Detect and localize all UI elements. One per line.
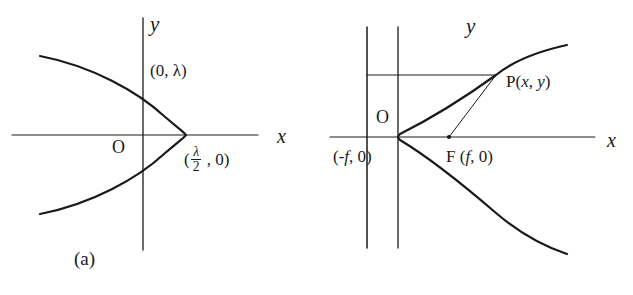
panel-a-caption: (a) — [74, 248, 95, 270]
x-axis-label: x — [607, 130, 616, 150]
origin-label: O — [112, 138, 125, 156]
focus-point-dot — [447, 135, 451, 139]
y-axis-label: y — [466, 16, 475, 37]
origin-label: O — [376, 108, 389, 126]
directrix-label: (-f, 0) — [333, 148, 372, 165]
focus-to-point-segment — [449, 75, 496, 137]
figure-root: y x O (0, λ) (λ2 , 0) (a) — [0, 0, 633, 295]
focus-label: F (f, 0) — [446, 148, 493, 165]
panel-a: y x O (0, λ) (λ2 , 0) (a) — [0, 0, 320, 295]
lambda-over-two-fraction: λ2 — [191, 145, 202, 174]
y-intercept-label: (0, λ) — [150, 62, 187, 79]
x-axis-label: x — [277, 126, 286, 146]
vertex-label: (λ2 , 0) — [184, 145, 229, 174]
point-p-label: P(x, y) — [506, 73, 550, 90]
panel-b: y x O P(x, y) F (f, 0) (-f, 0) (b) — [320, 0, 633, 295]
panel-a-graphics — [0, 0, 320, 295]
y-axis-label: y — [150, 14, 159, 35]
